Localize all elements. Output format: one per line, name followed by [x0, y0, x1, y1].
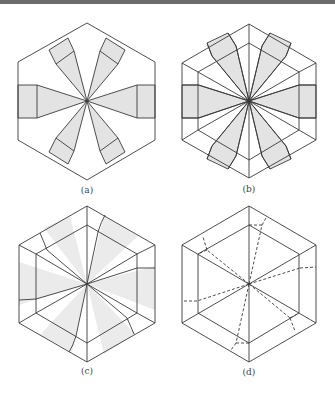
- panel-a-diagram: [18, 23, 155, 180]
- hexagon-crease-pattern-figure: [0, 0, 335, 399]
- panel-b-label: (b): [229, 184, 269, 194]
- panel-d-label: (d): [229, 367, 269, 377]
- panel-c-label: (c): [67, 366, 107, 376]
- panel-a-label: (a): [67, 185, 107, 195]
- panel-b-diagram: [182, 24, 316, 178]
- panel-c-diagram: [19, 206, 155, 362]
- panel-d-diagram: [182, 206, 316, 362]
